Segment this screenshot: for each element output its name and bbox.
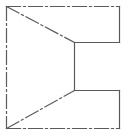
drawing-canvas — [0, 0, 131, 138]
projection-drawing — [0, 0, 131, 138]
upper-diagonal-line — [7, 7, 75, 43]
lower-diagonal-line — [7, 91, 75, 129]
